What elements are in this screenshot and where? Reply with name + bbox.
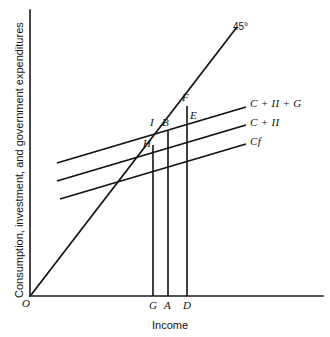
- curve-label-c-plus-i-plus-g: C + II + G: [250, 98, 301, 109]
- curve-label-consumption-function: Cf: [250, 136, 261, 147]
- x-tick-label-a: A: [164, 300, 171, 311]
- point-label-i: I: [150, 117, 154, 128]
- chart-canvas: [0, 0, 330, 337]
- point-label-e: E: [190, 110, 197, 121]
- point-label-b: B: [162, 117, 169, 128]
- point-label-h: H: [143, 138, 151, 149]
- keynesian-cross-figure: Consumption, investment, and government …: [0, 0, 330, 337]
- y-axis-title: Consumption, investment, and government …: [14, 22, 25, 298]
- origin-label: O: [22, 298, 30, 309]
- point-label-f: F: [182, 92, 189, 103]
- x-tick-label-d: D: [183, 300, 191, 311]
- curve-label-c-plus-i: C + II: [250, 117, 279, 128]
- x-axis-title: Income: [152, 320, 188, 331]
- forty-five-degree-label: 45°: [233, 22, 248, 32]
- x-tick-label-g: G: [149, 300, 157, 311]
